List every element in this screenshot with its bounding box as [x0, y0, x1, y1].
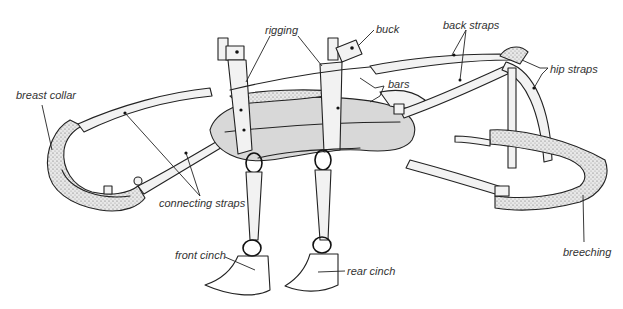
- label-front-cinch: front cinch: [175, 249, 226, 261]
- label-rigging: rigging: [265, 24, 298, 36]
- breast-collar-shape: [47, 120, 145, 211]
- label-back-straps: back straps: [443, 19, 499, 31]
- label-connecting-straps: connecting straps: [159, 197, 245, 209]
- label-bars: bars: [388, 78, 409, 90]
- label-hip-straps: hip straps: [550, 63, 598, 75]
- label-buck: buck: [376, 23, 399, 35]
- pack-saddle-illustration: [0, 0, 623, 309]
- label-rear-cinch: rear cinch: [347, 265, 395, 277]
- label-breeching: breeching: [563, 246, 611, 258]
- breeching-shape: [406, 130, 607, 210]
- cinch-shapes: [205, 148, 360, 295]
- label-breast-collar: breast collar: [16, 89, 76, 101]
